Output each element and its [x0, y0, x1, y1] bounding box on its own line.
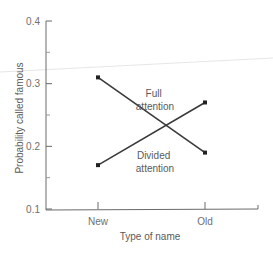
- series-label-full-attention: Full attention: [136, 88, 174, 112]
- scan-artifact-line: [0, 58, 273, 72]
- y-axis-label: Probability called famous: [14, 62, 25, 173]
- data-point-marker: [96, 163, 100, 167]
- x-axis-label: Type of name: [120, 231, 181, 242]
- x-axis-line: [46, 209, 258, 210]
- series-label-line: Divided: [137, 150, 170, 161]
- x-tick-label: New: [88, 216, 109, 227]
- data-point-marker: [96, 75, 100, 79]
- y-tick-label: 0.1: [26, 204, 40, 215]
- series-label-divided-attention: Divided attention: [136, 150, 174, 174]
- line-chart: 0.10.20.30.4 NewOld Type of name Probabi…: [0, 0, 273, 253]
- series-label-line: attention: [136, 163, 174, 174]
- y-tick-label: 0.4: [26, 16, 40, 27]
- data-point-marker: [203, 151, 207, 155]
- y-tick-label: 0.3: [26, 78, 40, 89]
- series-label-line: attention: [136, 101, 174, 112]
- y-tick-label: 0.2: [26, 141, 40, 152]
- data-point-marker: [203, 100, 207, 104]
- x-tick-label: Old: [197, 216, 213, 227]
- x-axis-ticks: NewOld: [88, 202, 213, 227]
- y-axis-ticks: 0.10.20.30.4: [26, 16, 52, 215]
- series-label-line: Full: [146, 88, 162, 99]
